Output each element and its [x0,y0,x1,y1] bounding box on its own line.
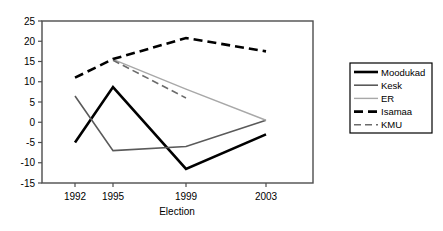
legend-label-kmu: KMU [381,119,402,130]
legend-label-kesk: Kesk [381,80,402,91]
y-tick-label: -5 [26,137,35,148]
y-tick-label: 25 [24,16,36,27]
y-tick-label: -15 [21,178,36,189]
y-tick-label: 0 [29,117,35,128]
x-tick-label: 1999 [175,191,198,202]
y-tick-label: -10 [21,157,36,168]
chart-legend: MoodukadKeskERIsamaaKMU [350,63,432,133]
legend-label-er: ER [381,93,394,104]
y-tick-label: 10 [24,76,36,87]
legend-label-isamaa: Isamaa [381,106,413,117]
y-tick-label: 20 [24,36,36,47]
y-tick-label: 15 [24,56,36,67]
legend-label-moodukad: Moodukad [381,67,425,78]
x-axis-title: Election [159,206,195,217]
x-tick-label: 1995 [102,191,125,202]
x-tick-label: 2003 [255,191,278,202]
chart-canvas: 2520151050-5-10-15 1992199519992003 Elec… [0,0,443,231]
x-tick-label: 1992 [64,191,87,202]
line-chart: 2520151050-5-10-15 1992199519992003 Elec… [0,0,443,231]
y-tick-label: 5 [29,97,35,108]
